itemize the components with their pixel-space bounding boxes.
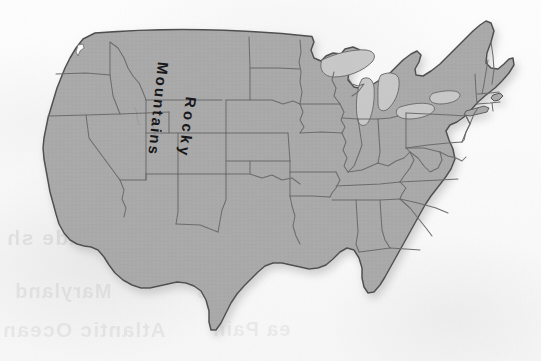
united-states-map: [0, 0, 541, 361]
scan-grain-overlay: [0, 0, 541, 361]
us-map-container: [0, 0, 541, 361]
scanned-map-page: els: shade sh Maryland Atlantic Ocean ea…: [0, 0, 541, 361]
